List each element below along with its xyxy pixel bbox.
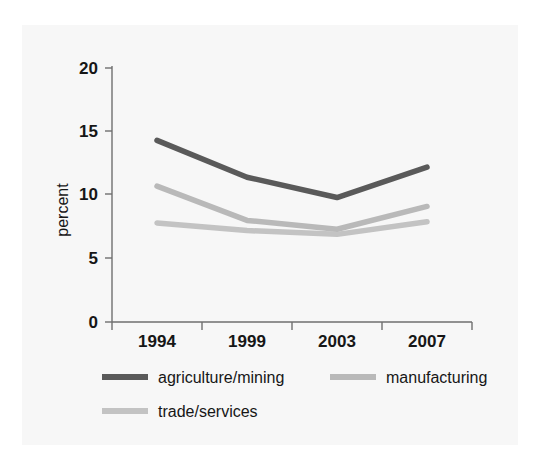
series-line-manufacturing: [157, 186, 427, 229]
y-tick-label-10: 10: [79, 185, 98, 204]
chart-figure: 20 15 10 5 0 percent 1994 1999 2003 2007…: [0, 0, 540, 468]
legend-label-manufacturing: manufacturing: [386, 369, 487, 386]
x-tick-label-1994: 1994: [138, 332, 176, 351]
y-tick-label-5: 5: [89, 249, 98, 268]
y-axis-title: percent: [54, 183, 71, 237]
x-tick-label-2003: 2003: [318, 332, 356, 351]
x-tick-label-2007: 2007: [408, 332, 446, 351]
y-tick-label-20: 20: [79, 59, 98, 78]
y-tick-label-0: 0: [89, 313, 98, 332]
legend-label-agriculture-mining: agriculture/mining: [158, 369, 284, 386]
x-tick-label-1999: 1999: [228, 332, 266, 351]
legend-label-trade-services: trade/services: [158, 403, 258, 420]
y-tick-label-15: 15: [79, 122, 98, 141]
line-chart: 20 15 10 5 0 percent 1994 1999 2003 2007…: [0, 0, 540, 468]
series-line-agriculture-mining: [157, 140, 427, 197]
